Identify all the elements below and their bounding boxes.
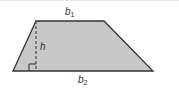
label-b2: b2 xyxy=(78,74,88,86)
trapezoid-diagram: b1 h b2 xyxy=(0,0,179,95)
label-b1: b1 xyxy=(65,6,75,18)
label-h: h xyxy=(40,41,46,52)
